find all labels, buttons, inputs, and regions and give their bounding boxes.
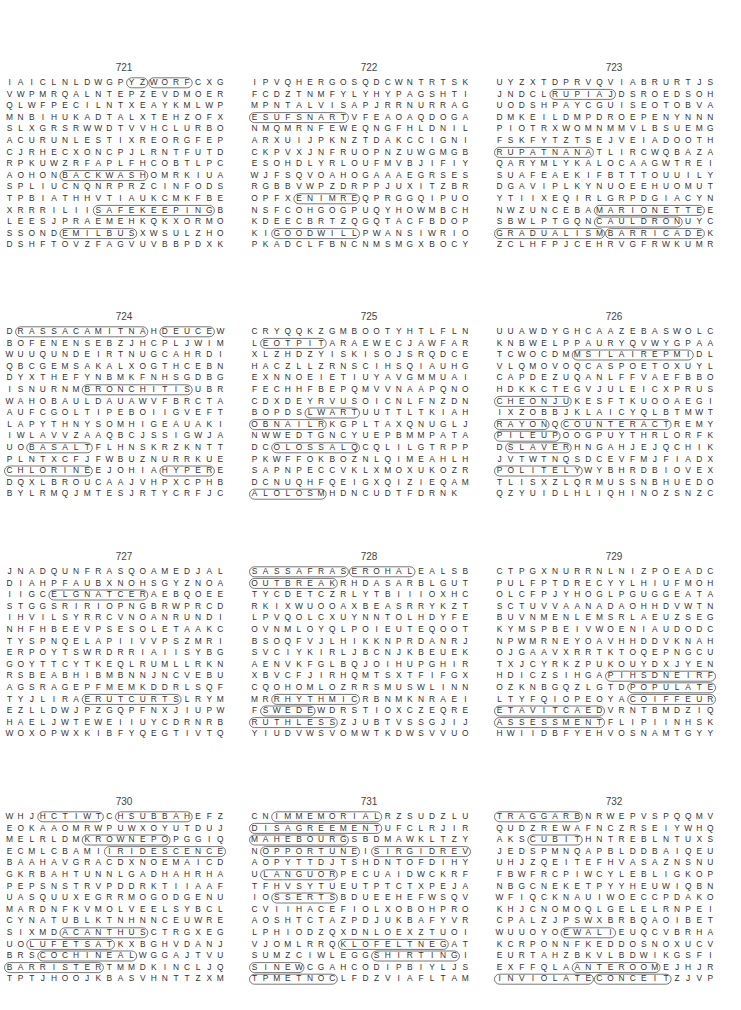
grid-letter: B: [148, 601, 159, 613]
grid-letter: J: [549, 589, 560, 601]
grid-letter: K: [572, 170, 583, 182]
grid-letter: U: [204, 454, 215, 466]
grid-letter: E: [549, 465, 560, 477]
grid-letter: E: [494, 705, 505, 717]
grid-letter: I: [505, 123, 516, 135]
grid-letter: A: [672, 193, 683, 205]
grid-letter: Z: [327, 589, 338, 601]
grid-letter: N: [271, 962, 282, 974]
grid-letter: P: [460, 442, 471, 454]
grid-letter: C: [583, 361, 594, 373]
grid-letter: K: [705, 717, 716, 729]
grid-letter: O: [449, 927, 460, 939]
grid-letter: T: [683, 205, 694, 217]
grid-letter: L: [627, 904, 638, 916]
grid-letter: Y: [371, 372, 382, 384]
grid-letter: P: [15, 973, 26, 985]
grid-letter: E: [338, 881, 349, 893]
grid-letter: N: [93, 869, 104, 881]
grid-letter: T: [159, 361, 170, 373]
grid-letter: U: [660, 77, 671, 89]
grid-letter: K: [427, 407, 438, 419]
grid-letter: E: [627, 892, 638, 904]
grid-letter: M: [282, 939, 293, 951]
grid-letter: S: [71, 361, 82, 373]
grid-letter: X: [249, 670, 260, 682]
grid-letter: A: [561, 100, 572, 112]
grid-letter: Q: [527, 892, 538, 904]
grid-letter: U: [415, 811, 426, 823]
grid-letter: I: [82, 228, 93, 240]
grid-letter: R: [304, 846, 315, 858]
grid-letter: S: [249, 566, 260, 578]
grid-letter: N: [271, 100, 282, 112]
grid-letter: S: [605, 361, 616, 373]
grid-letter: R: [427, 100, 438, 112]
grid-letter: J: [649, 454, 660, 466]
grid-letter: C: [215, 488, 226, 500]
grid-letter: T: [649, 361, 660, 373]
grid-letter: Q: [438, 384, 449, 396]
grid-letter: U: [583, 419, 594, 431]
grid-letter: A: [4, 170, 15, 182]
grid-letter: U: [505, 147, 516, 159]
grid-letter: L: [137, 147, 148, 159]
grid-letter: P: [271, 147, 282, 159]
grid-letter: R: [104, 349, 115, 361]
grid-letter: E: [170, 566, 181, 578]
grid-letter: I: [627, 566, 638, 578]
grid-letter: L: [82, 636, 93, 648]
grid-letter: W: [605, 811, 616, 823]
grid-letter: W: [193, 915, 204, 927]
grid-letter: A: [82, 216, 93, 228]
grid-letter: K: [572, 396, 583, 408]
grid-letter: C: [638, 892, 649, 904]
grid-letter: E: [26, 216, 37, 228]
grid-letter: T: [371, 728, 382, 740]
grid-letter: I: [170, 881, 181, 893]
grid-letter: I: [37, 181, 48, 193]
grid-letter: D: [4, 477, 15, 489]
grid-letter: Z: [438, 181, 449, 193]
grid-letter: N: [616, 973, 627, 985]
grid-letter: X: [26, 372, 37, 384]
grid-letter: G: [37, 601, 48, 613]
grid-letter: A: [71, 170, 82, 182]
grid-letter: V: [282, 659, 293, 671]
grid-letter: C: [159, 123, 170, 135]
grid-letter: C: [360, 361, 371, 373]
grid-letter: K: [449, 488, 460, 500]
grid-letter: H: [449, 589, 460, 601]
grid-letter: Y: [26, 659, 37, 671]
grid-letter: Z: [349, 135, 360, 147]
grid-letter: X: [26, 927, 37, 939]
grid-letter: S: [494, 601, 505, 613]
grid-letter: B: [616, 950, 627, 962]
grid-letter: V: [449, 915, 460, 927]
grid-letter: L: [71, 77, 82, 89]
grid-letter: N: [438, 950, 449, 962]
grid-letter: P: [494, 123, 505, 135]
grid-letter: T: [427, 927, 438, 939]
grid-letter: O: [293, 442, 304, 454]
grid-letter: N: [683, 112, 694, 124]
grid-letter: V: [260, 624, 271, 636]
grid-letter: W: [415, 682, 426, 694]
grid-letter: Y: [48, 647, 59, 659]
grid-letter: E: [338, 477, 349, 489]
grid-letter: Y: [516, 488, 527, 500]
grid-letter: K: [316, 454, 327, 466]
grid-letter: Y: [159, 100, 170, 112]
grid-letter: I: [215, 612, 226, 624]
grid-letter: A: [204, 881, 215, 893]
grid-letter: A: [672, 396, 683, 408]
grid-letter: A: [561, 973, 572, 985]
grid-letter: A: [104, 361, 115, 373]
grid-letter: E: [93, 465, 104, 477]
grid-letter: S: [170, 904, 181, 916]
grid-letter: N: [649, 939, 660, 951]
grid-letter: N: [382, 636, 393, 648]
grid-letter: I: [594, 892, 605, 904]
grid-letter: T: [572, 135, 583, 147]
grid-letter: D: [159, 682, 170, 694]
